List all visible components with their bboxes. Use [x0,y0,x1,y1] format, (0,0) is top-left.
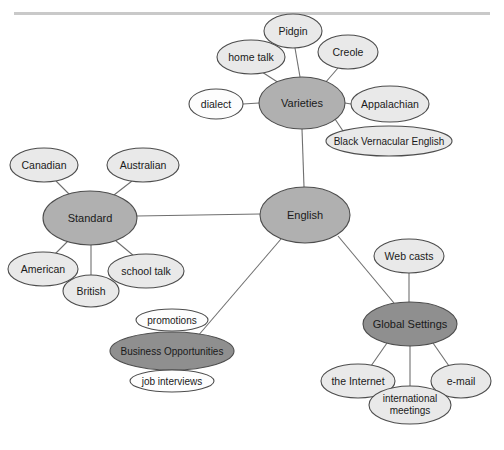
edge-standard-to-american [55,241,68,254]
node-shape-hometalk [217,40,285,74]
edge-english-to-varieties [302,129,304,187]
node-shape-british [63,275,119,307]
node-pidgin[interactable]: Pidgin [264,14,322,48]
node-british[interactable]: British [63,275,119,307]
edge-global-to-email [433,343,449,366]
node-schooltalk[interactable]: school talk [108,254,184,288]
node-dialect[interactable]: dialect [189,89,243,119]
edge-global-to-internet [371,343,387,366]
node-shape-pidgin [264,14,322,48]
node-shape-standard [43,191,137,245]
edge-varieties-to-hometalk [262,72,279,83]
edge-standard-to-canadian [56,181,70,195]
node-shape-webcasts [374,239,444,273]
node-webcasts[interactable]: Web casts [374,239,444,273]
edge-varieties-to-dialect [243,103,259,104]
edge-english-to-business [197,239,281,337]
node-shape-american [8,252,78,286]
node-layer: EnglishVarietiesStandardBusiness Opportu… [8,14,491,424]
node-shape-australian [107,148,179,182]
node-global[interactable]: Global Settings [363,302,457,346]
concept-map-canvas: EnglishVarietiesStandardBusiness Opportu… [0,0,504,450]
edge-english-to-standard [137,214,260,216]
node-shape-schooltalk [108,254,184,288]
edge-varieties-to-pidgin [295,48,300,77]
node-standard[interactable]: Standard [43,191,137,245]
node-english[interactable]: English [260,187,350,243]
node-intlmeet[interactable]: internationalmeetings [369,386,451,424]
edge-varieties-to-appal [345,103,351,104]
node-shape-business [110,332,234,370]
concept-map-page: EnglishVarietiesStandardBusiness Opportu… [0,0,504,450]
node-shape-jobint [130,370,214,392]
node-canadian[interactable]: Canadian [10,148,78,182]
edge-standard-to-australian [114,181,132,195]
node-shape-creole [318,35,378,69]
node-shape-bve [326,126,452,156]
node-shape-canadian [10,148,78,182]
node-business[interactable]: Business Opportunities [110,332,234,370]
node-bve[interactable]: Black Vernacular English [326,126,452,156]
node-appal[interactable]: Appalachian [351,86,429,122]
node-shape-dialect [189,89,243,119]
node-shape-promotions [136,309,208,331]
edge-standard-to-schooltalk [116,241,134,256]
node-shape-varieties [259,77,345,129]
edge-varieties-to-creole [325,68,338,83]
node-jobint[interactable]: job interviews [130,370,214,392]
node-shape-intlmeet [369,386,451,424]
node-shape-global [363,302,457,346]
node-shape-english [260,187,350,243]
node-creole[interactable]: Creole [318,35,378,69]
node-australian[interactable]: Australian [107,148,179,182]
node-hometalk[interactable]: home talk [217,40,285,74]
node-shape-appal [351,86,429,122]
node-american[interactable]: American [8,252,78,286]
node-varieties[interactable]: Varieties [259,77,345,129]
node-promotions[interactable]: promotions [136,309,208,331]
